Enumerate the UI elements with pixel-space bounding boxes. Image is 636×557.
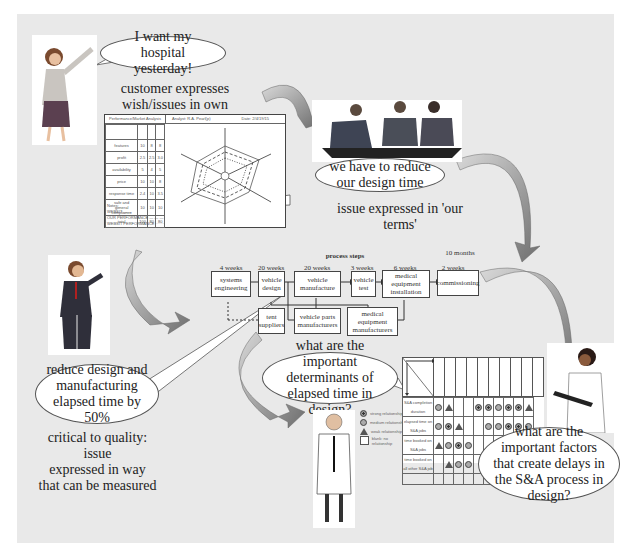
performance-analysis-sheet: Performance/Market Analysis Analyst: R.A…: [104, 114, 286, 228]
doctor-figure: [313, 410, 355, 528]
row-label: profit: [106, 152, 138, 164]
determinants-speech-text: what are the important determinants of e…: [274, 338, 386, 418]
customer-speech-bubble: I want my hospital yesterday!: [100, 36, 226, 70]
factors-speech-bubble: what are the important factors that crea…: [478, 427, 620, 501]
step-medical-equipment-installation: medical equipment installation: [382, 270, 430, 298]
step-vehicle-manufacture: vehicle manufacture: [294, 271, 341, 297]
date-value: 2/4/19/15: [252, 116, 269, 121]
relationship-legend: strong relationship medium relationship …: [360, 409, 408, 445]
sheet-title: Performance/Market Analysis: [105, 115, 166, 124]
weak-relationship-icon: [360, 428, 368, 435]
woman-pointing-icon: [32, 35, 97, 145]
matrix-row-label: time booked on all other S&A job: [403, 455, 434, 474]
strong-relationship-icon: [360, 410, 367, 417]
caption-line: critical to quality: issue: [35, 430, 160, 462]
caption-line: that can be measured: [35, 478, 160, 494]
matrix-row-label: S&A completion duration: [403, 398, 434, 417]
matrix-row-label: time booked on S&A jobs: [403, 436, 434, 455]
row-label: availability: [106, 164, 138, 176]
legend-label: strong relationship: [370, 411, 403, 416]
step-vehicle-test: vehicle test: [351, 271, 376, 297]
customer-figure: [32, 35, 97, 145]
medium-relationship-icon: [360, 419, 367, 426]
determinants-speech-bubble: what are the important determinants of e…: [262, 352, 398, 404]
radar-chart: [167, 124, 283, 226]
step-commissioning: commissioning: [437, 270, 479, 296]
woman-with-clipboard-icon: [547, 343, 615, 433]
process-title: process steps: [315, 252, 375, 260]
matrix-row: S&A completion duration: [403, 398, 534, 417]
legend-none: blank: no relationship: [360, 436, 408, 445]
analyst-figure: [547, 343, 615, 433]
team-meeting-figure: [312, 100, 462, 162]
analyst-label: Analyst:: [172, 116, 186, 121]
factors-speech-text: what are the important factors that crea…: [489, 424, 609, 504]
supplier-tent: tent suppliers: [258, 308, 285, 334]
step-systems-engineering: systems engineering: [211, 271, 251, 297]
row-label: response time: [106, 188, 138, 200]
legend-label: weak relationship: [371, 429, 402, 434]
supplier-medical-equipment: medical equipment manufacturers: [347, 307, 398, 336]
note-line: WEBSIT PERFORMANCE ·······: [107, 221, 165, 227]
matrix-corner: [402, 357, 434, 397]
process-total-duration: 10 months: [440, 249, 480, 257]
ctq-caption: critical to quality: issue expressed in …: [35, 430, 160, 494]
ctq-speech-bubble: reduce design and manufacturing elapsed …: [35, 364, 159, 424]
caption-line: customer expresses: [110, 81, 240, 97]
presenter-figure: [48, 255, 110, 355]
sheet-header: Analyst: R.A. Pearl(p) Date: 2/4/19/15: [166, 115, 285, 124]
matrix-row-label: elapsed time on S&A jobs: [403, 417, 434, 436]
ctq-speech-text: reduce design and manufacturing elapsed …: [42, 362, 152, 426]
date-label: Date:: [242, 116, 252, 121]
our-terms-caption: issue expressed in 'our terms': [320, 201, 480, 233]
caption-line: expressed in way: [35, 462, 160, 478]
legend-label: medium relationship: [370, 420, 406, 425]
analyst-value: R.A. Pearl(p): [187, 116, 210, 121]
legend-medium: medium relationship: [360, 418, 408, 427]
man-pointing-icon: [48, 255, 110, 355]
customer-speech-text: I want my hospital yesterday!: [115, 29, 211, 77]
row-label: price: [106, 176, 138, 188]
matrix-column-headers: [434, 357, 544, 397]
business-meeting-icon: [312, 100, 462, 162]
row-label: features: [106, 140, 138, 152]
no-relationship-icon: [360, 436, 369, 445]
doctor-icon: [313, 410, 355, 528]
team-speech-bubble: we have to reduce our design time: [315, 158, 445, 192]
legend-strong: strong relationship: [360, 409, 408, 418]
supplier-vehicle-parts: vehicle parts manufacturers: [294, 308, 341, 334]
step-vehicle-design: vehicle design: [258, 271, 285, 297]
team-speech-text: we have to reduce our design time: [325, 159, 435, 191]
sheet-notes: Notes: WEBSIT —— OUR PERFORMANCE — — — W…: [107, 203, 165, 227]
